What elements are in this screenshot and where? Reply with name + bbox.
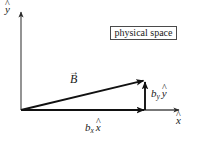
hat-accent-y-axis: ^ [5, 0, 10, 9]
physical-space-label: physical space [114, 28, 172, 38]
hat-accent-x-component: ^ [96, 117, 101, 127]
y-hat-glyph: ^ y [5, 4, 10, 15]
vector-diagram-canvas [0, 0, 205, 142]
y-component-unit-glyph: ^ y [162, 88, 167, 99]
x-component-label: bx ^ x [85, 122, 101, 135]
x-component-subscript: x [91, 126, 94, 135]
vector-arrow-accent-b: → [69, 67, 79, 77]
vector-b-label: → B [70, 73, 77, 85]
hat-accent-x-axis: ^ [176, 110, 181, 120]
y-component-label: by ^ y [151, 88, 167, 101]
hat-accent-y-component: ^ [162, 83, 167, 93]
x-axis-label: ^ x [176, 115, 181, 126]
physical-space-vector-diagram: physical space ^ y ^ x → B by ^ y bx ^ x [0, 0, 205, 142]
x-component-unit-glyph: ^ x [96, 122, 101, 133]
b-vector-glyph: → B [70, 73, 77, 85]
x-hat-glyph: ^ x [176, 115, 181, 126]
physical-space-annotation-box: physical space [110, 26, 177, 40]
vector-b-arrow [21, 81, 144, 110]
y-axis-label: ^ y [5, 4, 10, 15]
y-component-subscript: y [157, 92, 160, 101]
